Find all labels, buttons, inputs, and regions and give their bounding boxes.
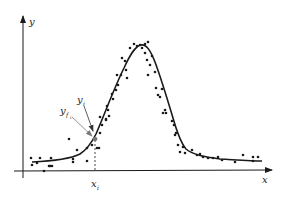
data-point bbox=[182, 146, 185, 149]
data-point bbox=[202, 156, 205, 159]
data-point bbox=[98, 147, 101, 150]
data-point bbox=[184, 152, 187, 155]
data-point bbox=[86, 147, 89, 150]
data-point bbox=[257, 156, 260, 159]
data-point bbox=[120, 74, 123, 77]
data-point bbox=[115, 89, 118, 92]
data-point bbox=[191, 149, 194, 152]
data-point bbox=[39, 157, 42, 160]
data-point bbox=[217, 156, 220, 159]
data-point bbox=[146, 59, 149, 62]
data-point bbox=[76, 149, 79, 152]
data-point bbox=[147, 41, 150, 44]
data-point bbox=[139, 44, 142, 47]
data-point bbox=[116, 74, 119, 77]
x-axis-label: x bbox=[262, 174, 268, 185]
xi-label: x i bbox=[91, 178, 99, 191]
data-point bbox=[36, 162, 39, 165]
data-point bbox=[126, 77, 129, 80]
data-point bbox=[164, 109, 167, 112]
yfi-label: y f i bbox=[59, 105, 72, 120]
data-point bbox=[72, 158, 75, 161]
data-point bbox=[207, 157, 210, 160]
data-point bbox=[144, 52, 147, 55]
data-point bbox=[175, 132, 178, 135]
data-point bbox=[124, 60, 127, 63]
data-point bbox=[144, 43, 147, 46]
data-point bbox=[196, 154, 199, 157]
data-point bbox=[252, 160, 255, 163]
data-point bbox=[159, 96, 162, 99]
data-point bbox=[147, 74, 150, 77]
data-point bbox=[151, 55, 154, 58]
data-point bbox=[234, 161, 237, 164]
data-point bbox=[108, 115, 111, 118]
data-point bbox=[129, 47, 132, 50]
x-axis bbox=[14, 170, 272, 171]
data-point bbox=[212, 157, 215, 160]
data-point bbox=[171, 120, 174, 123]
yi-label: y i bbox=[76, 94, 85, 107]
data-point bbox=[105, 119, 108, 122]
data-point bbox=[50, 157, 53, 160]
data-point bbox=[112, 98, 115, 101]
data-point bbox=[177, 144, 180, 147]
data-point bbox=[154, 71, 157, 74]
svg-text:i: i bbox=[97, 184, 99, 191]
data-point bbox=[252, 156, 255, 159]
data-point bbox=[155, 87, 158, 90]
svg-text:y: y bbox=[59, 105, 66, 116]
data-point bbox=[162, 112, 165, 115]
data-point bbox=[161, 88, 164, 91]
data-point bbox=[72, 161, 75, 164]
data-point bbox=[43, 170, 46, 173]
gaussian-fit-diagram: y x y i y f i x i bbox=[0, 0, 284, 199]
data-point bbox=[86, 160, 89, 163]
data-point bbox=[117, 84, 120, 87]
data-point bbox=[31, 164, 34, 167]
data-point bbox=[99, 116, 102, 119]
data-point bbox=[107, 109, 110, 112]
fitted-curve bbox=[32, 45, 262, 162]
data-point bbox=[242, 154, 245, 157]
data-point bbox=[136, 45, 139, 48]
y-axis-label: y bbox=[28, 16, 35, 27]
data-point bbox=[199, 153, 202, 156]
data-point bbox=[101, 124, 104, 127]
data-point bbox=[173, 124, 176, 127]
data-point bbox=[111, 93, 114, 96]
data-point bbox=[141, 47, 144, 50]
data-point bbox=[179, 151, 182, 154]
svg-text:i: i bbox=[83, 100, 85, 107]
data-point bbox=[68, 138, 71, 141]
data-point bbox=[99, 132, 102, 135]
data-point bbox=[91, 144, 94, 147]
data-point bbox=[133, 43, 136, 46]
data-point bbox=[165, 112, 168, 115]
fitted-point-marker bbox=[93, 137, 97, 141]
data-point bbox=[51, 165, 54, 168]
data-point bbox=[106, 105, 109, 108]
data-point bbox=[121, 57, 124, 60]
svg-text:i: i bbox=[70, 115, 72, 120]
data-point bbox=[157, 94, 160, 97]
data-point bbox=[30, 157, 33, 160]
svg-text:y: y bbox=[76, 94, 83, 105]
yi-arrow bbox=[84, 106, 93, 131]
figure-canvas: y x y i y f i x i bbox=[0, 0, 284, 199]
data-point bbox=[221, 159, 224, 162]
data-point bbox=[125, 69, 128, 72]
data-point bbox=[149, 64, 152, 67]
